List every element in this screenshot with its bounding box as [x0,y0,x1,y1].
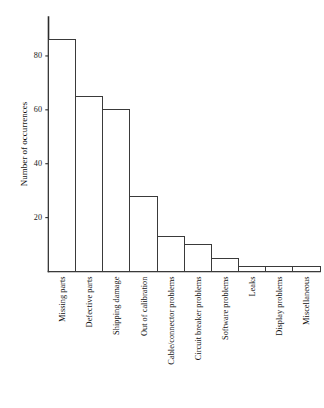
x-category-label: Cable/connector problems [167,277,176,365]
y-axis-ticks: 20406080 [34,51,49,222]
y-tick-label: 40 [34,159,42,168]
x-category-label: Shipping damage [112,276,121,335]
y-tick-label: 80 [34,51,42,60]
bar [157,236,184,271]
bar [293,266,320,271]
pareto-chart: 20406080 Missing partsDefective partsShi… [0,0,324,408]
bar [239,266,266,271]
bar [266,266,293,271]
bar [49,40,76,272]
y-tick-label: 20 [34,213,42,222]
x-category-label: Out of calibration [140,276,149,336]
x-category-label: Leaks [248,277,257,297]
bar [211,258,238,271]
x-category-label: Software problems [221,277,230,341]
x-category-label: Circuit breaker problems [194,277,203,361]
x-category-label: Miscellaneous [302,277,311,325]
bar [103,110,130,272]
chart-canvas: 20406080 Missing partsDefective partsShi… [0,0,324,408]
x-category-label: Missing parts [58,277,67,322]
bar [184,245,211,272]
y-axis-title: Number of occurrences [19,101,29,186]
bar [76,96,103,271]
y-tick-label: 60 [34,105,42,114]
x-axis-category-labels: Missing partsDefective partsShipping dam… [58,276,311,365]
x-category-label: Defective parts [85,277,94,328]
x-category-label: Display problems [275,277,284,336]
bar [130,196,157,271]
bars-group [49,40,321,272]
